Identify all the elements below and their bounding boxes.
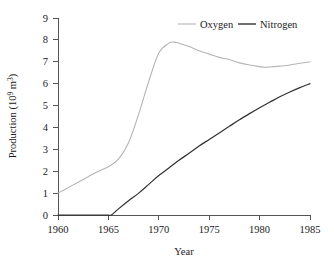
y-tick-label: 3	[43, 144, 48, 155]
legend-label-oxygen: Oxygen	[200, 19, 234, 30]
x-tick-label: 1960	[48, 224, 69, 235]
y-tick-label: 9	[43, 13, 48, 24]
x-tick-label: 1975	[199, 224, 220, 235]
line-chart: 0123456789 196019651970197519801985 Oxyg…	[0, 0, 334, 261]
y-tick-label: 2	[43, 166, 48, 177]
chart-background	[0, 0, 334, 261]
y-tick-label: 0	[43, 210, 48, 221]
x-tick-label: 1970	[148, 224, 169, 235]
x-tick-label: 1985	[300, 224, 321, 235]
x-tick-label: 1980	[249, 224, 270, 235]
chart-container: 0123456789 196019651970197519801985 Oxyg…	[0, 0, 334, 261]
legend-label-nitrogen: Nitrogen	[260, 19, 298, 30]
y-axis-title: Production (109 m3)	[6, 73, 20, 158]
x-axis-title: Year	[174, 246, 194, 257]
svg-text:Production (109 m3): Production (109 m3)	[6, 73, 20, 158]
y-tick-label: 8	[43, 34, 48, 45]
x-tick-label: 1965	[98, 224, 119, 235]
y-tick-label: 7	[43, 56, 48, 67]
y-tick-label: 5	[43, 100, 48, 111]
y-tick-label: 6	[43, 78, 48, 89]
y-tick-label: 4	[43, 122, 49, 133]
y-tick-label: 1	[43, 188, 48, 199]
